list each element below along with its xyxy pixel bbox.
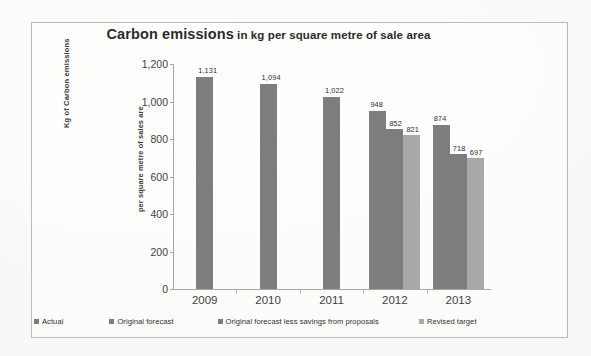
bar bbox=[403, 135, 420, 289]
y-axis-tick-label: 1,000 bbox=[142, 96, 168, 108]
bar bbox=[467, 158, 484, 289]
x-axis-category-label: 2012 bbox=[363, 294, 426, 306]
bar-group: 1,131 bbox=[196, 64, 213, 289]
x-axis-category-label: 2011 bbox=[300, 294, 363, 306]
chart-title-subtitle: in kg per square metre of sale area bbox=[234, 29, 431, 41]
chart-title-main: Carbon emissions bbox=[107, 26, 234, 42]
bar-value-label: 821 bbox=[406, 125, 419, 134]
legend-item[interactable]: Original forecast less savings from prop… bbox=[218, 317, 379, 326]
bar-value-label: 852 bbox=[389, 119, 402, 128]
chart-legend: ActualOriginal forecastOriginal forecast… bbox=[34, 313, 566, 329]
y-axis-tick-label: 1,200 bbox=[142, 58, 168, 70]
y-axis-tick-label: 0 bbox=[162, 283, 168, 295]
bar-value-label: 874 bbox=[434, 114, 447, 123]
legend-swatch-icon bbox=[34, 319, 39, 324]
bar bbox=[369, 111, 386, 289]
legend-item[interactable]: Revised target bbox=[419, 317, 477, 326]
legend-label: Original forecast bbox=[117, 317, 173, 326]
bar-value-label: 1,022 bbox=[325, 86, 344, 95]
legend-swatch-icon bbox=[109, 319, 114, 324]
bar-group: 1,094 bbox=[260, 64, 277, 289]
bar bbox=[450, 154, 467, 289]
y-axis-title-outer: Kg of Carbon emissions bbox=[62, 0, 71, 128]
bar bbox=[260, 84, 277, 289]
legend-label: Revised target bbox=[427, 317, 477, 326]
bar bbox=[386, 129, 403, 289]
y-axis-tick-label: 400 bbox=[150, 208, 168, 220]
legend-swatch-icon bbox=[218, 319, 223, 324]
bar bbox=[433, 125, 450, 289]
x-axis-category-label: 2010 bbox=[236, 294, 299, 306]
y-axis-tick-label: 600 bbox=[150, 171, 168, 183]
bar-value-label: 948 bbox=[370, 100, 383, 109]
x-axis-category-label: 2009 bbox=[173, 294, 236, 306]
x-axis-category-labels: 20092010201120122013 bbox=[173, 294, 491, 310]
y-axis-tick-label: 200 bbox=[150, 246, 168, 258]
y-axis-tick-label: 800 bbox=[150, 133, 168, 145]
bar-group: 948852821 bbox=[369, 64, 420, 289]
bar-group: 874718697 bbox=[433, 64, 484, 289]
legend-label: Actual bbox=[42, 317, 63, 326]
bar bbox=[196, 77, 213, 289]
bar-value-label: 697 bbox=[470, 148, 483, 157]
legend-label: Original forecast less savings from prop… bbox=[226, 317, 379, 326]
bar bbox=[323, 97, 340, 289]
bar-value-label: 1,094 bbox=[262, 73, 281, 82]
plot-area: 1,1311,0941,022948852821874718697 bbox=[173, 64, 490, 289]
bar-group: 1,022 bbox=[323, 64, 340, 289]
chart-title: Carbon emissions in kg per square metre … bbox=[0, 25, 537, 43]
bar-value-label: 1,131 bbox=[198, 66, 217, 75]
x-axis-category-label: 2013 bbox=[427, 294, 490, 306]
legend-item[interactable]: Original forecast bbox=[109, 317, 173, 326]
bar-value-label: 718 bbox=[453, 144, 466, 153]
legend-swatch-icon bbox=[419, 319, 424, 324]
y-axis-tick-labels: 02004006008001,0001,200 bbox=[120, 64, 168, 289]
legend-item[interactable]: Actual bbox=[34, 317, 63, 326]
